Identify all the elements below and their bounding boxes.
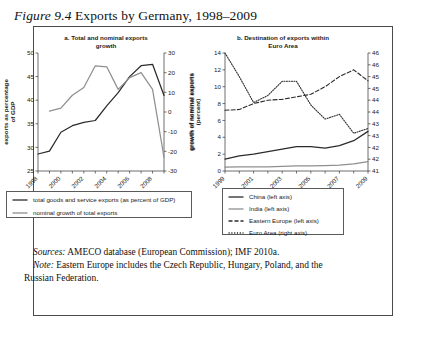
svg-text:-10: -10 xyxy=(168,128,178,135)
legend-b-item: China (left axis) xyxy=(228,191,343,202)
svg-text:25: 25 xyxy=(27,167,34,174)
svg-text:2004: 2004 xyxy=(93,174,108,189)
svg-text:43: 43 xyxy=(372,132,379,139)
svg-text:46: 46 xyxy=(372,49,379,56)
svg-text:42: 42 xyxy=(372,155,379,162)
figure-notes: Sources: AMECO database (European Commis… xyxy=(24,246,344,285)
svg-text:30: 30 xyxy=(27,144,34,151)
svg-text:2002: 2002 xyxy=(70,174,85,189)
svg-text:0: 0 xyxy=(168,108,172,115)
svg-text:growth of nominal exports: growth of nominal exports xyxy=(187,73,194,151)
svg-text:12: 12 xyxy=(214,66,221,73)
legend-swatch-icon xyxy=(228,229,244,237)
svg-text:46: 46 xyxy=(372,61,379,68)
svg-text:45: 45 xyxy=(372,73,379,80)
legend-label: nominal growth of total exports xyxy=(33,209,117,216)
svg-text:50: 50 xyxy=(27,49,34,56)
svg-text:6: 6 xyxy=(218,117,222,124)
svg-text:35: 35 xyxy=(27,120,34,127)
svg-text:8: 8 xyxy=(218,100,222,107)
svg-text:10: 10 xyxy=(214,83,221,90)
svg-text:of GDP: of GDP xyxy=(9,102,16,123)
legend-panel-a: total goods and service exports (as perc… xyxy=(6,191,192,218)
legend-a-item: total goods and service exports (as perc… xyxy=(12,194,191,205)
svg-text:44: 44 xyxy=(372,108,379,115)
figure-number: Figure 9.4 xyxy=(14,8,72,23)
svg-text:41: 41 xyxy=(372,167,379,174)
svg-text:2: 2 xyxy=(218,150,222,157)
note-label: Note: xyxy=(33,260,54,270)
legend-swatch-icon xyxy=(12,209,28,217)
legend-b-item: India (left axis) xyxy=(228,203,343,214)
legend-label: India (left axis) xyxy=(249,205,289,212)
svg-text:2000: 2000 xyxy=(47,174,62,189)
svg-text:4: 4 xyxy=(218,133,222,140)
panel-b-title-line1: b. Destination of exports within xyxy=(208,34,358,42)
note-text: Eastern Europe includes the Czech Republ… xyxy=(24,260,323,283)
legend-swatch-icon xyxy=(228,217,244,225)
svg-text:45: 45 xyxy=(372,85,379,92)
svg-text:44: 44 xyxy=(372,96,379,103)
svg-text:2008: 2008 xyxy=(139,174,154,189)
sources-text: AMECO database (European Commission); IM… xyxy=(65,247,279,257)
figure-title-text: Exports by Germany, 1998–2009 xyxy=(75,8,257,23)
legend-b-item: Euro Area (right axis) xyxy=(228,227,343,238)
svg-text:20: 20 xyxy=(168,69,175,76)
svg-text:-20: -20 xyxy=(168,148,178,155)
svg-text:0: 0 xyxy=(218,167,222,174)
svg-text:42: 42 xyxy=(372,144,379,151)
note-line: Note: Eastern Europe includes the Czech … xyxy=(24,259,344,285)
legend-label: China (left axis) xyxy=(249,193,292,200)
legend-label: total goods and service exports (as perc… xyxy=(33,196,175,203)
svg-text:45: 45 xyxy=(27,73,34,80)
chart-panel-a: 253035404550-30-20-100102030199820002002… xyxy=(0,47,198,197)
sources-label: Sources: xyxy=(33,247,65,257)
svg-text:exports as percentage: exports as percentage xyxy=(2,79,9,145)
legend-swatch-icon xyxy=(228,193,244,201)
figure-title: Figure 9.4 Exports by Germany, 1998–2009 xyxy=(14,8,257,24)
legend-b-item: Eastern Europe (left axis) xyxy=(228,215,343,226)
svg-text:2006: 2006 xyxy=(116,174,131,189)
svg-text:10: 10 xyxy=(168,89,175,96)
legend-swatch-icon xyxy=(12,196,28,204)
svg-text:14: 14 xyxy=(214,49,221,56)
legend-a-item: nominal growth of total exports xyxy=(12,207,191,218)
svg-text:43: 43 xyxy=(372,120,379,127)
legend-label: Euro Area (right axis) xyxy=(249,229,307,236)
svg-text:-30: -30 xyxy=(168,167,178,174)
svg-text:(percent): (percent) xyxy=(194,99,201,125)
svg-text:2009: 2009 xyxy=(354,174,369,189)
legend-label: Eastern Europe (left axis) xyxy=(249,217,319,224)
svg-text:1998: 1998 xyxy=(24,174,39,189)
legend-panel-b: China (left axis)India (left axis)Easter… xyxy=(222,188,344,235)
sources-line: Sources: AMECO database (European Commis… xyxy=(24,246,344,259)
svg-text:40: 40 xyxy=(27,96,34,103)
panel-a-title-line1: a. Total and nominal exports xyxy=(26,34,186,42)
svg-text:30: 30 xyxy=(168,49,175,56)
chart-panel-b: 0246810121441424243434444454546461999200… xyxy=(183,47,398,197)
legend-swatch-icon xyxy=(228,205,244,213)
